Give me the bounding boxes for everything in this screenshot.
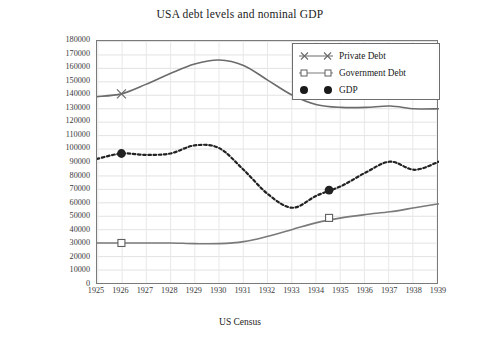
y-tick-label: 180000 (44, 36, 90, 44)
y-tick-label: 130000 (44, 104, 90, 112)
y-tick-label: 50000 (44, 212, 90, 220)
legend-label: GDP (335, 85, 358, 95)
chart-container: USA debt levels and nominal GDP US $ mil… (0, 0, 480, 344)
y-tick-label: 40000 (44, 226, 90, 234)
legend-item-government-debt: Government Debt (297, 64, 435, 81)
y-tick-label: 20000 (44, 253, 90, 261)
legend-item-private-debt: Private Debt (297, 47, 435, 64)
y-tick-label: 60000 (44, 199, 90, 207)
y-tick-label: 100000 (44, 144, 90, 152)
y-tick-label: 140000 (44, 90, 90, 98)
x-axis-label: US Census (0, 317, 480, 327)
y-tick-label: 110000 (44, 131, 90, 139)
chart-title: USA debt levels and nominal GDP (0, 8, 480, 20)
x-marker-icon (297, 49, 335, 63)
y-tick-label: 70000 (44, 185, 90, 193)
y-tick-label: 90000 (44, 158, 90, 166)
y-tick-label: 120000 (44, 117, 90, 125)
y-tick-label: 170000 (44, 50, 90, 58)
filled-circle-icon (297, 83, 335, 97)
y-tick-label: 160000 (44, 63, 90, 71)
legend-label: Private Debt (335, 51, 386, 61)
legend-label: Government Debt (335, 68, 406, 78)
legend-item-gdp: GDP (297, 81, 435, 98)
y-tick-label: 30000 (44, 239, 90, 247)
square-marker-icon (297, 66, 335, 80)
chart-legend: Private Debt Government Debt GDP (292, 43, 440, 100)
y-tick-label: 80000 (44, 172, 90, 180)
y-tick-label: 10000 (44, 266, 90, 274)
y-tick-label: 150000 (44, 77, 90, 85)
x-tick-label: 1939 (423, 287, 453, 295)
